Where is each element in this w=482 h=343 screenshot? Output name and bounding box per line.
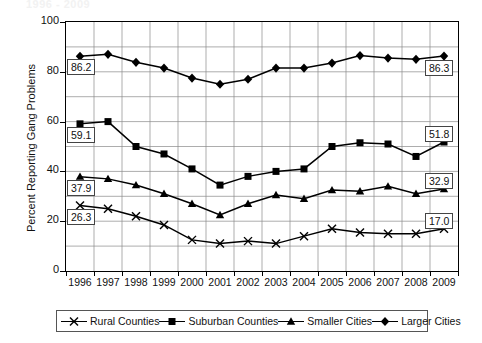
plot-area [65,21,459,272]
callout-left-suburban-counties: 59.1 [67,127,95,143]
x-tick-label: 2009 [424,276,464,288]
legend-label: Smaller Cities [307,315,372,327]
callout-left-smaller-cities: 37.9 [67,180,95,196]
legend-item-rural-counties[interactable]: Rural Counties [61,315,159,327]
legend-label: Rural Counties [90,315,159,327]
chart-legend: Rural CountiesSuburban CountiesSmaller C… [56,310,428,332]
y-axis-title: Percent Reporting Gang Problems [25,23,37,273]
callout-left-rural-counties: 26.3 [67,209,95,225]
callout-right-larger-cities: 86.3 [425,60,453,76]
figure-title: 1996 - 2009 [26,0,226,10]
triangle-marker [278,316,304,327]
x-marker [61,316,87,327]
diamond-marker [372,316,398,327]
legend-item-smaller-cities[interactable]: Smaller Cities [278,315,372,327]
legend-label: Larger Cities [401,315,461,327]
legend-label: Suburban Counties [188,315,278,327]
legend-item-larger-cities[interactable]: Larger Cities [372,315,461,327]
chart-figure: 1996 - 2009 Percent Reporting Gang Probl… [0,0,482,343]
callout-right-suburban-counties: 51.8 [425,126,453,142]
legend-item-suburban-counties[interactable]: Suburban Counties [159,315,278,327]
square-marker [159,316,185,327]
callout-left-larger-cities: 86.2 [67,59,95,75]
plot-svg [66,22,458,271]
callout-right-smaller-cities: 32.9 [425,173,453,189]
callout-right-rural-counties: 17.0 [425,213,453,229]
